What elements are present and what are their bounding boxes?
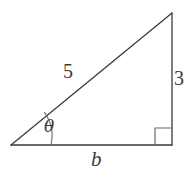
hypotenuse-label: 5 [63, 61, 73, 81]
hypotenuse-line [11, 13, 172, 145]
opposite-side-label: 3 [174, 68, 184, 88]
triangle-drawing [0, 0, 193, 170]
right-angle-marker [155, 128, 172, 145]
angle-theta-label: θ [44, 118, 54, 135]
triangle-figure: 5 3 b θ [0, 0, 193, 170]
adjacent-side-label: b [91, 149, 102, 170]
